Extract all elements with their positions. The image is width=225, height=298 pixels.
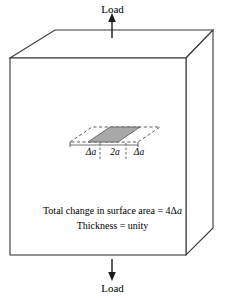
caption-surface-area: Total change in surface area = 4Δa (0, 206, 225, 216)
load-arrow-down-icon (108, 259, 116, 281)
load-arrow-down-head (108, 272, 116, 281)
dimension-label-2a: 2a (105, 148, 125, 158)
caption-surface-area-symbol: a (177, 205, 182, 216)
caption-thickness: Thickness = unity (0, 221, 225, 231)
dimension-label-delta-a-right: Δa (127, 148, 151, 158)
caption-surface-area-text: Total change in surface area = 4Δ (43, 205, 177, 216)
fracture-mechanics-diagram: Load Load Δa 2a Δa Total change in surfa… (0, 0, 225, 298)
load-label-bottom: Load (0, 283, 225, 294)
dimension-label-delta-a-left: Δa (79, 148, 103, 158)
load-label-top: Load (0, 4, 225, 15)
